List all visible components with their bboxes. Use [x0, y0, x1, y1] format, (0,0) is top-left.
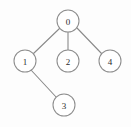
node-3[interactable]: 3 [53, 94, 75, 116]
graph-diagram: 01243 [0, 0, 131, 127]
edge-0-1 [33, 28, 60, 54]
nodes-layer: 01243 [14, 10, 121, 116]
node-2-label: 2 [66, 57, 71, 67]
node-0[interactable]: 0 [57, 10, 79, 32]
edge-1-3 [31, 70, 57, 98]
node-2[interactable]: 2 [57, 50, 79, 72]
node-1[interactable]: 1 [14, 50, 36, 72]
node-4[interactable]: 4 [99, 50, 121, 72]
graph-svg-canvas: 01243 [0, 0, 131, 127]
node-4-label: 4 [108, 57, 113, 67]
node-3-label: 3 [62, 101, 67, 111]
node-0-label: 0 [66, 17, 71, 27]
node-1-label: 1 [23, 57, 28, 67]
edge-0-4 [77, 28, 102, 54]
